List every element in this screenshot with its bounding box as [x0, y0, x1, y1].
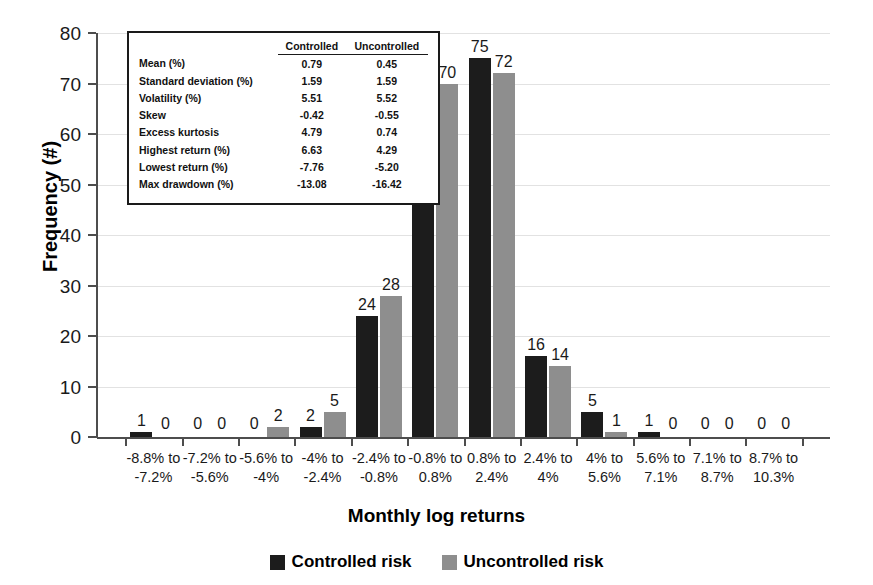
legend-item-uncontrolled[interactable]: Uncontrolled risk	[442, 552, 604, 572]
y-axis-tick	[88, 83, 96, 85]
statistics-table-header-row: Controlled Uncontrolled	[137, 40, 428, 55]
statistics-value-controlled: 6.63	[278, 141, 346, 158]
statistics-row-label: Excess kurtosis	[137, 124, 278, 141]
legend-label: Controlled risk	[292, 552, 412, 572]
statistics-header-blank	[137, 40, 278, 55]
y-axis-tick-label: 50	[35, 176, 81, 195]
gridline	[97, 286, 830, 287]
x-axis-tick	[464, 438, 466, 446]
x-axis-tick	[182, 438, 184, 446]
x-axis-tick	[576, 438, 578, 446]
statistics-value-uncontrolled: -0.55	[346, 107, 428, 124]
statistics-row-label: Skew	[137, 107, 278, 124]
y-axis-tick	[88, 184, 96, 186]
statistics-table-row: Lowest return (%)-7.76-5.20	[137, 158, 428, 175]
bar-value-label: 5	[572, 393, 612, 409]
y-axis-tick	[88, 335, 96, 337]
bar-value-label: 28	[371, 277, 411, 293]
y-axis-tick	[88, 436, 96, 438]
y-axis-tick-label: 80	[35, 24, 81, 43]
statistics-value-controlled: -7.76	[278, 158, 346, 175]
gridline	[97, 387, 830, 388]
statistics-value-uncontrolled: 0.74	[346, 124, 428, 141]
bar-uncontrolled	[549, 366, 571, 437]
x-axis-category-line: 8.7% to	[741, 449, 807, 468]
x-axis-tick	[520, 438, 522, 446]
bar-uncontrolled	[493, 73, 515, 437]
statistics-table-head: Controlled Uncontrolled	[137, 40, 428, 55]
y-axis-tick-label: 40	[35, 226, 81, 245]
statistics-value-controlled: 1.59	[278, 72, 346, 89]
statistics-value-uncontrolled: 1.59	[346, 72, 428, 89]
bar-value-label: 24	[347, 297, 387, 313]
chart-legend: Controlled riskUncontrolled risk	[0, 552, 873, 572]
x-axis-line	[97, 437, 830, 439]
bar-value-label: 5	[315, 393, 355, 409]
statistics-value-controlled: 0.79	[278, 55, 346, 73]
bar-uncontrolled	[380, 296, 402, 437]
legend-swatch-icon	[442, 555, 457, 570]
x-axis-tick	[125, 438, 127, 446]
y-axis-tick-label: 30	[35, 277, 81, 296]
statistics-table-row: Excess kurtosis4.790.74	[137, 124, 428, 141]
gridline	[97, 235, 830, 236]
statistics-row-label: Lowest return (%)	[137, 158, 278, 175]
legend-item-controlled[interactable]: Controlled risk	[270, 552, 412, 572]
y-axis-tick-label: 70	[35, 75, 81, 94]
legend-swatch-icon	[270, 555, 285, 570]
statistics-table-row: Max drawdown (%)-13.08-16.42	[137, 175, 428, 192]
statistics-value-controlled: -13.08	[278, 175, 346, 192]
y-axis-tick-label: 60	[35, 125, 81, 144]
y-axis-tick-label: 20	[35, 327, 81, 346]
x-axis-tick	[294, 438, 296, 446]
statistics-row-label: Max drawdown (%)	[137, 175, 278, 192]
statistics-value-uncontrolled: 4.29	[346, 141, 428, 158]
statistics-value-uncontrolled: 0.45	[346, 55, 428, 73]
bar-value-label: 14	[540, 347, 580, 363]
statistics-value-uncontrolled: -16.42	[346, 175, 428, 192]
bar-value-label: 72	[484, 54, 524, 70]
x-axis-category-line: 10.3%	[741, 468, 807, 487]
x-axis-tick	[407, 438, 409, 446]
bar-controlled	[525, 356, 547, 437]
statistics-row-label: Highest return (%)	[137, 141, 278, 158]
gridline	[97, 336, 830, 337]
bar-value-label: 0	[766, 416, 806, 432]
statistics-row-label: Standard deviation (%)	[137, 72, 278, 89]
y-axis-tick-label: 0	[35, 428, 81, 447]
bar-value-label: 75	[460, 39, 500, 55]
statistics-table-row: Skew-0.42-0.55	[137, 107, 428, 124]
histogram-figure: Frequency (#) 01020304050607080 10000225…	[0, 0, 873, 585]
y-axis-tick	[88, 285, 96, 287]
statistics-value-controlled: 5.51	[278, 89, 346, 106]
x-axis-category-label: 8.7% to10.3%	[741, 449, 807, 487]
x-axis-tick	[238, 438, 240, 446]
y-axis-line	[96, 33, 98, 438]
statistics-header-uncontrolled: Uncontrolled	[346, 40, 428, 55]
statistics-table-body: Mean (%)0.790.45Standard deviation (%)1.…	[137, 55, 428, 193]
y-axis-tick-label: 10	[35, 378, 81, 397]
statistics-value-uncontrolled: 5.52	[346, 89, 428, 106]
x-axis-tick	[351, 438, 353, 446]
x-axis-title: Monthly log returns	[0, 505, 873, 527]
statistics-table: Controlled Uncontrolled Mean (%)0.790.45…	[127, 31, 440, 205]
y-axis-tick	[88, 234, 96, 236]
statistics-table-row: Standard deviation (%)1.591.59	[137, 72, 428, 89]
x-axis-tick	[745, 438, 747, 446]
statistics-header-controlled: Controlled	[278, 40, 346, 55]
x-axis-tick	[802, 438, 804, 446]
legend-label: Uncontrolled risk	[464, 552, 604, 572]
y-axis-tick	[88, 133, 96, 135]
x-axis-tick	[689, 438, 691, 446]
statistics-table-row: Mean (%)0.790.45	[137, 55, 428, 73]
y-axis-tick	[88, 386, 96, 388]
bar-controlled	[356, 316, 378, 437]
statistics-table-row: Volatility (%)5.515.52	[137, 89, 428, 106]
bar-controlled	[469, 58, 491, 437]
statistics-table-row: Highest return (%)6.634.29	[137, 141, 428, 158]
bar-controlled	[300, 427, 322, 437]
statistics-value-controlled: -0.42	[278, 107, 346, 124]
x-axis-tick	[633, 438, 635, 446]
statistics-table-grid: Controlled Uncontrolled Mean (%)0.790.45…	[137, 40, 428, 193]
statistics-row-label: Mean (%)	[137, 55, 278, 73]
